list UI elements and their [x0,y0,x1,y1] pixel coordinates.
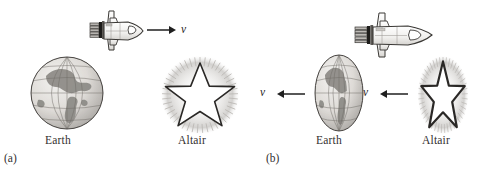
space-shuttle-a [89,9,147,52]
panel-b: v [244,0,487,172]
panel-letter-a: (a) [4,152,17,164]
shuttle-velocity-arrow-a [147,23,177,37]
velocity-label-b-star: v [363,86,368,98]
earth-label-a: Earth [45,134,71,146]
velocity-label-a: v [181,23,186,35]
earth-globe-b [314,54,364,132]
earth-velocity-arrow-b [274,87,306,101]
panel-letter-b: (b) [266,152,279,164]
altair-label-b: Altair [422,134,450,146]
velocity-label-b-earth: v [260,86,265,98]
altair-star-a [159,54,241,136]
panel-a: Earth [0,0,244,172]
space-shuttle-b [354,11,436,59]
earth-globe-a [30,56,104,130]
figure-length-contraction: Earth [0,0,487,172]
star-velocity-arrow-b [377,87,409,101]
altair-star-b [416,54,470,136]
altair-label-a: Altair [178,134,206,146]
earth-label-b: Earth [316,134,342,146]
